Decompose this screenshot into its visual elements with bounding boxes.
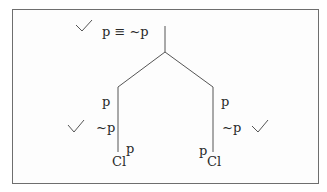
right-branch-line-2: ~p [222, 121, 241, 134]
left-branch-closure: Cl [112, 155, 126, 168]
left-branch-line-1: p [102, 95, 110, 108]
root-formula: p ≡ ~p [102, 25, 149, 38]
check-icon-left [68, 120, 84, 132]
truth-tree-lines [0, 0, 327, 192]
left-branch-line-2: ~p [96, 121, 115, 134]
left-branch-annotation: p [126, 142, 134, 155]
right-branch-closure: Cl [207, 155, 221, 168]
right-branch-line-1: p [221, 95, 229, 108]
check-icon-root [76, 20, 92, 31]
check-icon-right [252, 120, 268, 132]
